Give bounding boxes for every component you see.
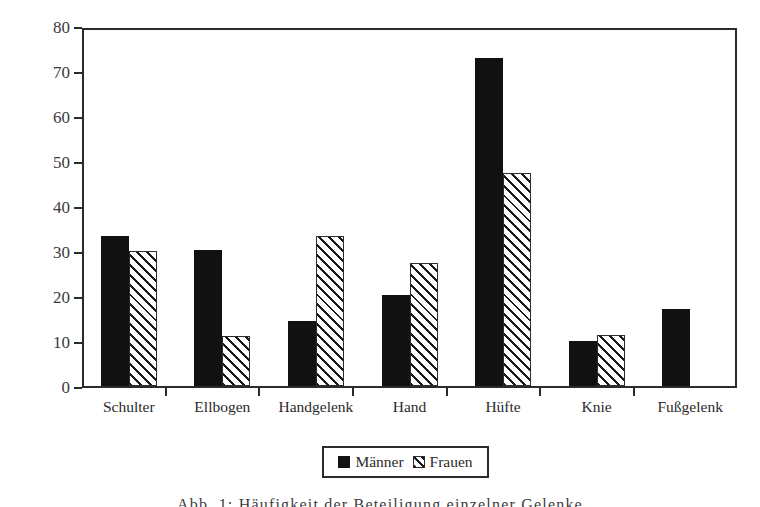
bar-frauen-ellbogen: [222, 336, 250, 386]
legend-item-maenner: Männer: [338, 453, 403, 471]
bar-frauen-schulter: [129, 251, 157, 386]
solid-black-swatch-icon: [338, 456, 350, 468]
figure-caption: Abb. 1: Häufigkeit der Beteiligung einze…: [0, 496, 760, 507]
y-axis-tick: [74, 342, 82, 344]
legend-item-frauen: Frauen: [413, 453, 473, 471]
y-axis-tick: [74, 72, 82, 74]
y-axis-tick-label: 20: [38, 289, 70, 306]
bar-maenner-handgelenk: [288, 321, 316, 386]
x-axis-tick: [446, 388, 448, 396]
hatched-swatch-icon: [413, 456, 425, 468]
bar-chart-figure: Anteil der Betroffenen (%) 0102030405060…: [0, 0, 760, 507]
y-axis-tick-label: 70: [38, 64, 70, 81]
y-axis-tick: [74, 387, 82, 389]
y-axis-tick: [74, 27, 82, 29]
y-axis-tick: [74, 162, 82, 164]
y-axis-tick-label: 40: [38, 199, 70, 216]
bar-frauen-hand: [410, 263, 438, 386]
bar-maenner-ellbogen: [194, 250, 222, 386]
bar-maenner-fußgelenk: [662, 309, 690, 386]
legend-label-maenner: Männer: [355, 453, 403, 471]
y-axis-tick-label: 50: [38, 154, 70, 171]
x-axis-tick: [165, 388, 167, 396]
y-axis-tick-label: 0: [38, 379, 70, 396]
y-axis-tick: [74, 297, 82, 299]
y-axis-tick-label: 80: [38, 19, 70, 36]
y-axis-tick-label: 10: [38, 334, 70, 351]
bar-maenner-hüfte: [475, 58, 503, 386]
x-axis-tick: [352, 388, 354, 396]
y-axis-tick: [74, 252, 82, 254]
y-axis-tick: [74, 117, 82, 119]
chart-legend: Männer Frauen: [322, 446, 489, 478]
x-axis-tick: [539, 388, 541, 396]
bar-frauen-handgelenk: [316, 236, 344, 386]
x-axis-tick: [633, 388, 635, 396]
bars-layer: [84, 30, 735, 386]
x-axis-tick: [258, 388, 260, 396]
bar-frauen-hüfte: [503, 173, 531, 386]
legend-label-frauen: Frauen: [430, 453, 473, 471]
bar-maenner-hand: [382, 295, 410, 386]
bar-maenner-schulter: [101, 236, 129, 386]
x-axis-label-fußgelenk: Fußgelenk: [630, 398, 750, 416]
y-axis-tick-label: 60: [38, 109, 70, 126]
y-axis-tick-label: 30: [38, 244, 70, 261]
bar-maenner-knie: [569, 341, 597, 386]
bar-frauen-knie: [597, 335, 625, 386]
y-axis-tick: [74, 207, 82, 209]
